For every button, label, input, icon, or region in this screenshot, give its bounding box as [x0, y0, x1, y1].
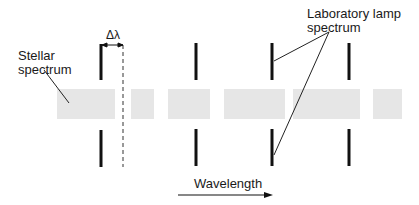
stellar-segment — [131, 89, 154, 119]
stellar-segment — [168, 89, 210, 119]
stellar-segment — [373, 89, 402, 119]
wavelength-arrow — [178, 192, 273, 198]
stellar-segment — [224, 89, 285, 119]
stellar-spectrum — [57, 89, 402, 119]
delta-lambda-bracket — [102, 43, 123, 47]
lab-lamp-label-2: spectrum — [307, 20, 360, 35]
arrow-head-icon — [264, 192, 273, 198]
lab-leader-line-top — [274, 32, 329, 61]
wavelength-label: Wavelength — [194, 176, 262, 191]
delta-lambda-label: Δλ — [106, 28, 120, 43]
stellar-spectrum-label-1: Stellar — [18, 48, 55, 63]
stellar-segment — [293, 89, 360, 119]
stellar-segment — [57, 89, 115, 119]
stellar-spectrum-label-2: spectrum — [18, 62, 71, 77]
lab-lamp-label-1: Laboratory lamp — [307, 6, 401, 21]
